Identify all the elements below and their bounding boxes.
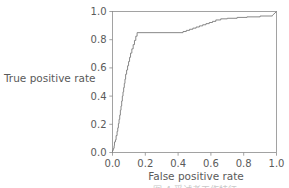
x-tick-label: 0.2 [137, 158, 153, 169]
roc-plot-svg: 0.00.20.40.60.81.00.00.20.40.60.81.0 [0, 0, 289, 188]
x-tick-label: 0.6 [203, 158, 219, 169]
x-tick-label: 0.4 [170, 158, 186, 169]
y-axis-label: True positive rate [4, 72, 100, 84]
y-tick-label: 0.2 [91, 119, 107, 130]
x-tick-label: 0.8 [236, 158, 252, 169]
y-tick-label: 0.0 [91, 147, 107, 158]
clipped-figure-caption: 图 4 受试者工作特征 [120, 183, 270, 188]
x-tick-label: 0.0 [105, 158, 121, 169]
y-tick-label: 1.0 [91, 6, 107, 17]
y-tick-label: 0.4 [91, 91, 107, 102]
roc-curve-figure: True positive rate False positive rate 图… [0, 0, 289, 188]
y-tick-label: 0.8 [91, 34, 107, 45]
x-axis-label: False positive rate [112, 170, 280, 182]
roc-curve-line [113, 12, 277, 153]
x-tick-label: 1.0 [269, 158, 285, 169]
